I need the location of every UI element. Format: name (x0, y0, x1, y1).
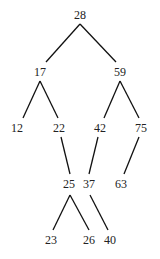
tree-node-37: 37 (83, 177, 95, 191)
tree-node-17: 17 (34, 65, 46, 79)
tree-node-26: 26 (83, 233, 95, 247)
edge-n37-n40 (90, 195, 108, 230)
tree-node-42: 42 (94, 121, 106, 135)
edge-n75-n63 (124, 137, 139, 174)
tree-node-75: 75 (135, 121, 147, 135)
edge-n28-n17 (46, 24, 80, 62)
edge-n17-n22 (40, 81, 58, 118)
edge-n17-n12 (23, 81, 40, 118)
edge-n42-n37 (89, 137, 98, 174)
tree-node-59: 59 (114, 65, 126, 79)
edge-n25-n26 (70, 195, 89, 230)
tree-node-40: 40 (104, 233, 116, 247)
edge-n28-n59 (80, 24, 116, 62)
edge-n59-n75 (120, 81, 139, 118)
edge-n59-n42 (104, 81, 120, 118)
tree-node-25: 25 (63, 177, 75, 191)
edge-n22-n25 (61, 137, 70, 174)
tree-edges (23, 24, 139, 230)
tree-node-28: 28 (74, 8, 86, 22)
edge-n25-n23 (53, 195, 70, 230)
tree-node-23: 23 (45, 233, 57, 247)
tree-node-22: 22 (53, 121, 65, 135)
tree-node-63: 63 (115, 177, 127, 191)
binary-tree-diagram: 28175912224275253763232640 (0, 0, 160, 259)
tree-node-12: 12 (11, 121, 23, 135)
